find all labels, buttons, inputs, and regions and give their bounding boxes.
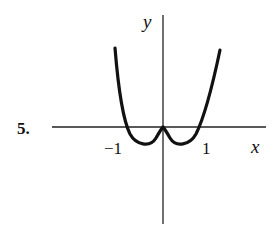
problem-number: 5. xyxy=(17,119,30,138)
y-axis-label: y xyxy=(141,11,152,32)
x-tick-label-neg1: −1 xyxy=(104,139,122,158)
function-curve xyxy=(115,48,220,144)
graph: 5. −1 1 x y xyxy=(0,0,278,226)
x-axis-label: x xyxy=(250,136,260,157)
x-tick-label-1: 1 xyxy=(202,139,211,158)
